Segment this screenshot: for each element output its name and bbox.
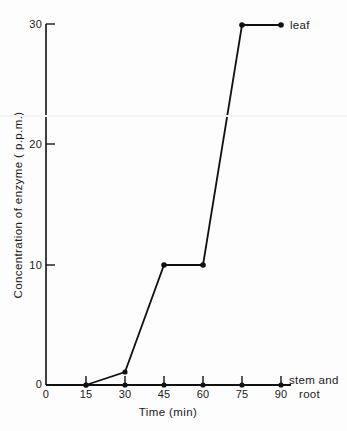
series-stem-and-root	[83, 382, 283, 387]
x-tick-label-90: 90	[275, 388, 288, 400]
x-tick-label-75: 75	[236, 388, 249, 400]
y-tick-label-10: 10	[29, 259, 42, 271]
data-point-stem-root-60	[200, 382, 205, 387]
y-tick-label-20: 20	[29, 138, 42, 150]
x-tick-label-0: 0	[43, 388, 49, 400]
data-point-leaf-90	[278, 22, 284, 28]
chart-figure: 30 20 10 0 0 15 30 45 60 75 90	[0, 0, 347, 431]
data-point-leaf-75	[239, 22, 245, 28]
data-point-stem-root-75	[239, 382, 244, 387]
data-point-leaf-30	[122, 369, 127, 374]
data-point-stem-root-90	[278, 382, 283, 387]
series-label-stem-and-root-line1: stem and	[289, 374, 339, 386]
x-tick-label-60: 60	[197, 388, 210, 400]
line-chart: 30 20 10 0 0 15 30 45 60 75 90	[0, 0, 347, 431]
y-tick-label-30: 30	[29, 18, 42, 30]
data-point-stem-root-15	[83, 382, 88, 387]
series-leaf-line	[86, 25, 281, 385]
y-tick-label-0: 0	[36, 378, 42, 390]
x-tick-label-45: 45	[158, 388, 171, 400]
data-point-stem-root-30	[122, 382, 127, 387]
data-point-leaf-45	[161, 262, 167, 268]
x-tick-label-15: 15	[80, 388, 93, 400]
x-tick-label-30: 30	[119, 388, 132, 400]
data-point-leaf-60	[200, 262, 206, 268]
data-point-stem-root-45	[161, 382, 166, 387]
series-label-stem-and-root-line2: root	[299, 388, 321, 400]
x-axis-title: Time (min)	[139, 406, 198, 418]
series-label-leaf: leaf	[290, 19, 310, 31]
y-axis-title: Concentration of enzyme ( p.p.m.)	[12, 111, 24, 298]
series-leaf	[83, 22, 283, 387]
